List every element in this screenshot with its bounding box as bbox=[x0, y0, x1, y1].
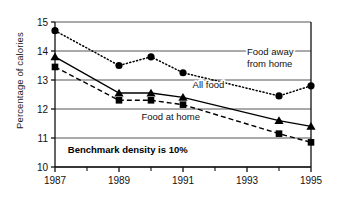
marker-square-2-5 bbox=[308, 139, 315, 146]
y-tick-label-13: 13 bbox=[37, 75, 49, 86]
marker-square-2-1 bbox=[116, 97, 123, 104]
marker-circle-0-5 bbox=[307, 82, 314, 89]
y-tick-label-10: 10 bbox=[37, 162, 49, 173]
marker-square-2-0 bbox=[52, 64, 59, 71]
x-tick-label-1993: 1993 bbox=[236, 175, 259, 186]
marker-circle-0-1 bbox=[115, 62, 122, 69]
y-tick-label-12: 12 bbox=[37, 104, 49, 115]
x-tick-label-1995: 1995 bbox=[300, 175, 323, 186]
marker-square-2-3 bbox=[180, 101, 187, 108]
marker-circle-0-2 bbox=[147, 53, 154, 60]
annotation-3: Food at home bbox=[141, 111, 200, 122]
y-tick-label-15: 15 bbox=[37, 17, 49, 28]
x-tick-label-1989: 1989 bbox=[108, 175, 131, 186]
marker-square-2-2 bbox=[148, 97, 155, 104]
chart-container: Percentage of calories 19871989199119931… bbox=[0, 0, 339, 201]
line-chart: 19871989199119931995 101112131415 Food a… bbox=[0, 0, 339, 201]
marker-circle-0-0 bbox=[51, 27, 58, 34]
y-tick-label-11: 11 bbox=[38, 133, 49, 144]
x-tick-label-1991: 1991 bbox=[172, 175, 195, 186]
annotation-2: All food bbox=[193, 79, 225, 90]
annotation-1: from home bbox=[247, 58, 292, 69]
annotation-0: Food away bbox=[247, 46, 294, 57]
chart-background bbox=[0, 0, 339, 201]
annotation-4: Benchmark density is 10% bbox=[68, 144, 188, 155]
y-tick-label-14: 14 bbox=[37, 46, 49, 57]
marker-square-2-4 bbox=[276, 130, 283, 137]
marker-circle-0-4 bbox=[275, 92, 282, 99]
y-axis-title: Percentage of calories bbox=[14, 11, 25, 151]
marker-circle-0-3 bbox=[179, 69, 186, 76]
x-tick-label-1987: 1987 bbox=[44, 175, 67, 186]
